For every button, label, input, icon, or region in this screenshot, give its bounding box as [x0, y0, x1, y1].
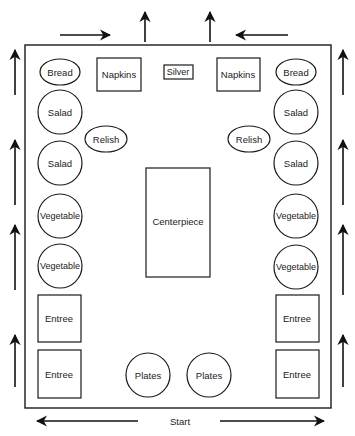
- left-salad-1-label: Salad: [48, 107, 72, 118]
- left-vegetable-1-label: Vegetable: [40, 211, 80, 221]
- right-relish-label: Relish: [236, 134, 262, 145]
- centerpiece-label: Centerpiece: [152, 216, 203, 227]
- right-vegetable-2-label: Vegetable: [276, 262, 316, 272]
- silver-label: Silver: [167, 67, 190, 77]
- right-entree-1-label: Entree: [283, 313, 311, 324]
- right-napkins-label: Napkins: [221, 69, 256, 80]
- right-bread-label: Bread: [283, 67, 308, 78]
- left-vegetable-2-label: Vegetable: [40, 261, 80, 271]
- right-plates-label: Plates: [196, 370, 223, 381]
- left-plates-label: Plates: [135, 370, 162, 381]
- left-entree-1-label: Entree: [45, 313, 73, 324]
- left-napkins-label: Napkins: [102, 69, 137, 80]
- right-entree-2-label: Entree: [283, 369, 311, 380]
- right-salad-1-label: Salad: [284, 107, 308, 118]
- left-bread-label: Bread: [47, 67, 72, 78]
- left-entree-2-label: Entree: [45, 369, 73, 380]
- right-salad-2-label: Salad: [284, 158, 308, 169]
- left-salad-2-label: Salad: [48, 158, 72, 169]
- buffet-diagram: Start Bread Salad Salad Vegetable Vegeta…: [0, 0, 355, 436]
- left-relish-label: Relish: [93, 134, 119, 145]
- start-label: Start: [170, 416, 190, 427]
- right-vegetable-1-label: Vegetable: [276, 211, 316, 221]
